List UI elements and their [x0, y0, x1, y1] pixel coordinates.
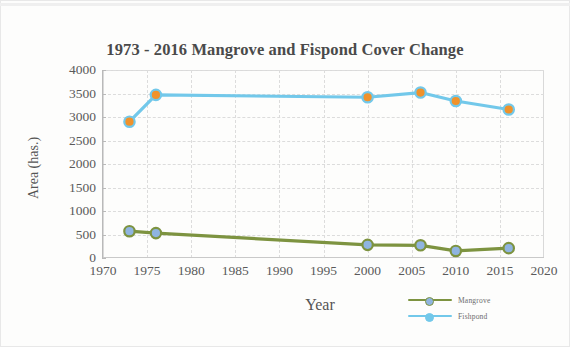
x-tick-label: 1995 [301, 264, 347, 278]
data-point-mangrove-2010 [451, 246, 461, 256]
x-tick-label: 2010 [433, 264, 479, 278]
x-tick-label: 2015 [477, 264, 523, 278]
y-tick-mark [102, 258, 106, 259]
x-tick-label: 2020 [521, 264, 567, 278]
legend-item-mangrove[interactable]: Mangrove [408, 292, 558, 308]
x-tick-label: 1970 [80, 264, 126, 278]
y-tick-label: 1000 [52, 204, 96, 218]
data-point-fishpond-2000 [362, 92, 372, 102]
y-axis-tick-labels: 05001000150020002500300035004000 [52, 70, 98, 258]
legend-label-mangrove: Mangrove [458, 296, 490, 305]
y-tick-label: 4000 [52, 63, 96, 77]
data-point-mangrove-2016 [504, 243, 514, 253]
legend-label-fishpond: Fishpond [458, 312, 488, 321]
data-point-mangrove-2000 [362, 240, 372, 250]
chart-legend: Mangrove Fishpond [408, 292, 558, 324]
x-tick-label: 1985 [212, 264, 258, 278]
y-tick-mark [102, 235, 106, 236]
x-tick-label: 2000 [345, 264, 391, 278]
data-series-layer [103, 70, 544, 258]
y-tick-mark [102, 188, 106, 189]
data-point-fishpond-2016 [504, 104, 514, 114]
y-tick-label: 2500 [52, 134, 96, 148]
y-tick-mark [102, 70, 106, 71]
data-point-fishpond-2006 [415, 87, 425, 97]
y-tick-mark [102, 141, 106, 142]
x-tick-label: 2005 [389, 264, 435, 278]
y-tick-label: 3500 [52, 87, 96, 101]
y-tick-mark [102, 211, 106, 212]
y-tick-label: 500 [52, 228, 96, 242]
x-tick-label: 1990 [256, 264, 302, 278]
data-point-mangrove-1976 [151, 228, 161, 238]
y-tick-label: 1500 [52, 181, 96, 195]
plot-area [103, 70, 544, 258]
x-tick-label: 1975 [124, 264, 170, 278]
data-point-fishpond-1976 [151, 90, 161, 100]
data-point-fishpond-1973 [124, 117, 134, 127]
line-chart: 1973 - 2016 Mangrove and Fispond Cover C… [0, 0, 570, 347]
legend-marker-fishpond [425, 313, 434, 322]
x-axis-title: Year [245, 296, 395, 314]
data-point-mangrove-2006 [415, 240, 425, 250]
y-tick-mark [102, 164, 106, 165]
chart-title: 1973 - 2016 Mangrove and Fispond Cover C… [0, 40, 570, 60]
legend-marker-mangrove [425, 297, 434, 306]
x-axis-tick-labels: 1970197519801985199019952000200520102015… [103, 264, 544, 284]
data-point-mangrove-1973 [124, 226, 134, 236]
x-tick-label: 1980 [168, 264, 214, 278]
data-point-fishpond-2010 [451, 96, 461, 106]
y-tick-label: 3000 [52, 110, 96, 124]
y-tick-label: 2000 [52, 157, 96, 171]
y-tick-mark [102, 117, 106, 118]
y-tick-mark [102, 94, 106, 95]
y-axis-title: Area (has.) [26, 108, 42, 228]
legend-item-fishpond[interactable]: Fishpond [408, 308, 558, 324]
legend-swatch-mangrove [408, 294, 452, 306]
legend-swatch-fishpond [408, 310, 452, 322]
